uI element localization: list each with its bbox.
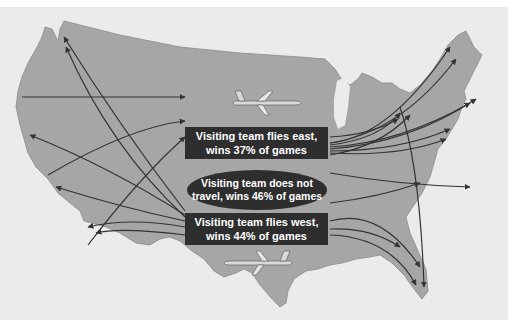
label-no-travel-line2: travel, wins 46% of games xyxy=(192,190,322,203)
label-flies-east-line2: wins 37% of games xyxy=(185,143,328,157)
label-flies-west-line2: wins 44% of games xyxy=(185,229,328,243)
label-flies-east: Visiting team flies east, wins 37% of ga… xyxy=(185,127,328,159)
label-flies-west: Visiting team flies west, wins 44% of ga… xyxy=(185,213,328,245)
label-flies-east-line1: Visiting team flies east, xyxy=(185,129,328,143)
infographic-panel: Visiting team flies east, wins 37% of ga… xyxy=(0,7,508,320)
label-no-travel-line1: Visiting team does not xyxy=(201,177,313,190)
us-map xyxy=(0,7,508,320)
label-flies-west-line1: Visiting team flies west, xyxy=(185,215,328,229)
label-no-travel: Visiting team does not travel, wins 46% … xyxy=(187,170,327,210)
